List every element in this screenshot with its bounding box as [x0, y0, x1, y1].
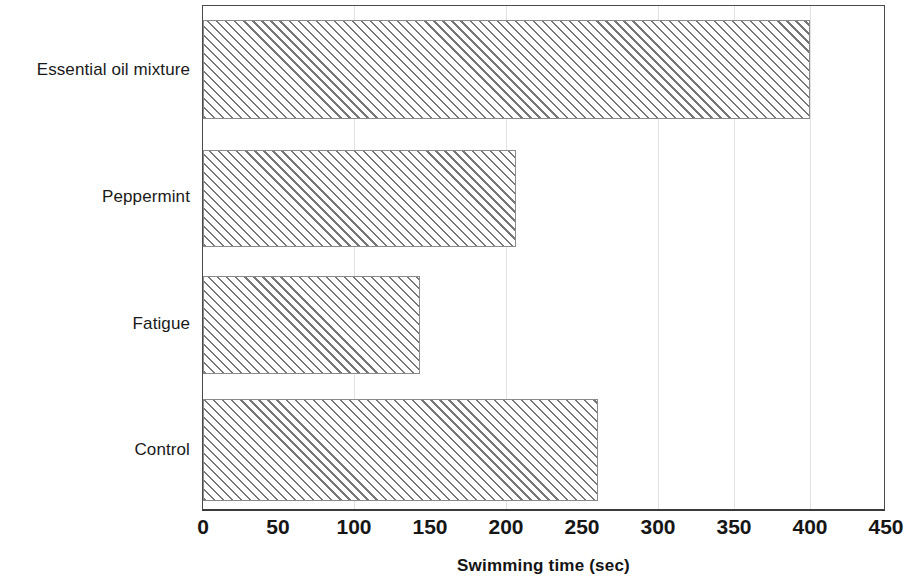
- category-label-control: Control: [12, 441, 202, 459]
- category-axis: Essential oil mixture Peppermint Fatigue…: [0, 0, 202, 586]
- xtick-300: 300: [640, 514, 675, 540]
- gridline-400: [810, 6, 811, 509]
- bar-fatigue: [203, 276, 420, 374]
- bar-peppermint: [203, 150, 516, 247]
- xtick-350: 350: [716, 514, 751, 540]
- x-axis-title: Swimming time (sec): [202, 556, 885, 576]
- bar-essential-oil-mixture: [203, 20, 810, 119]
- xtick-250: 250: [564, 514, 599, 540]
- plot-area: [202, 5, 885, 511]
- bar-control: [203, 399, 598, 501]
- xtick-200: 200: [488, 514, 523, 540]
- xtick-150: 150: [412, 514, 447, 540]
- category-label-fatigue: Fatigue: [12, 315, 202, 333]
- xtick-450: 450: [868, 514, 903, 540]
- bar-chart-figure: Essential oil mixture Peppermint Fatigue…: [0, 0, 910, 586]
- category-label-essential-oil-mixture: Essential oil mixture: [12, 61, 202, 79]
- xtick-0: 0: [197, 514, 209, 540]
- category-label-peppermint: Peppermint: [12, 188, 202, 206]
- xtick-100: 100: [336, 514, 371, 540]
- xtick-50: 50: [266, 514, 289, 540]
- xtick-400: 400: [792, 514, 827, 540]
- x-axis-tick-labels: 0 50 100 150 200 250 300 350 400 450: [0, 514, 910, 548]
